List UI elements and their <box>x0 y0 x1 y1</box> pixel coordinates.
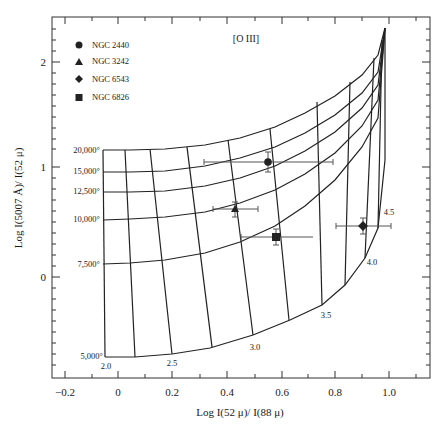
legend-label: NGC 3242 <box>92 56 129 66</box>
density-label: 2.0 <box>101 361 112 371</box>
diamond-marker-icon <box>75 75 83 83</box>
x-tick-label: 0.4 <box>220 386 234 398</box>
temperature-label: 10,000° <box>73 214 100 224</box>
density-label: 4.0 <box>367 257 378 267</box>
density-line <box>187 147 212 347</box>
panel-title: [O III] <box>233 33 259 44</box>
model-grid <box>103 28 385 357</box>
density-label: 3.0 <box>250 342 261 352</box>
y-tick-label: 2 <box>41 56 47 68</box>
density-line <box>317 102 322 305</box>
density-label: 3.5 <box>321 310 332 320</box>
triangle-marker-icon <box>75 58 83 65</box>
y-tick-label: 0 <box>41 271 47 283</box>
temperature-curve <box>103 28 385 192</box>
temperature-label: 20,000° <box>73 145 100 155</box>
x-tick-label: 0 <box>115 386 121 398</box>
density-line <box>345 82 350 285</box>
x-tick-label: 0.2 <box>165 386 179 398</box>
temperature-curve <box>103 28 385 150</box>
legend-label: NGC 6543 <box>92 74 129 84</box>
density-line <box>150 149 172 354</box>
data-point-ngc6543 <box>336 218 391 234</box>
temperature-label: 7,500° <box>77 259 100 269</box>
y-tick-label: 1 <box>41 161 47 173</box>
x-tick-label: 1.0 <box>382 386 396 398</box>
density-line <box>103 150 105 357</box>
circle-marker-icon <box>264 158 272 166</box>
data-point-ngc2440 <box>204 152 333 172</box>
square-marker-icon <box>76 94 83 101</box>
density-label: 4.5 <box>384 207 395 217</box>
temperature-label: 15,000° <box>73 166 100 176</box>
temperature-label: 12,500° <box>73 186 100 196</box>
density-line <box>125 150 135 357</box>
data-point-ngc3242 <box>213 202 258 217</box>
square-marker-icon <box>272 233 280 241</box>
legend-label: NGC 6826 <box>92 92 129 102</box>
y-axis-title: Log I(5007 Å)/ I(52 μ) <box>12 147 25 248</box>
density-line <box>270 129 289 320</box>
legend-label: NGC 2440 <box>92 40 129 50</box>
temperature-curve <box>105 28 385 357</box>
density-label: 2.5 <box>167 358 178 368</box>
circle-marker-icon <box>76 42 83 49</box>
data-point-ngc6826 <box>241 229 313 245</box>
x-axis-ticks <box>65 17 416 378</box>
temperature-curve <box>103 28 385 172</box>
x-tick-label: 0.6 <box>275 386 289 398</box>
chart: −0.2 0 0.2 0.4 0.6 0.8 1.0 2 1 0 Log I(5… <box>0 0 447 428</box>
x-tick-label: −0.2 <box>55 386 75 398</box>
x-axis-title: Log I(52 μ)/ I(88 μ) <box>196 406 284 419</box>
legend: NGC 2440 NGC 3242 NGC 6543 NGC 6826 <box>75 40 129 102</box>
x-tick-label: 0.8 <box>328 386 342 398</box>
temperature-label: 5,000° <box>80 351 103 361</box>
